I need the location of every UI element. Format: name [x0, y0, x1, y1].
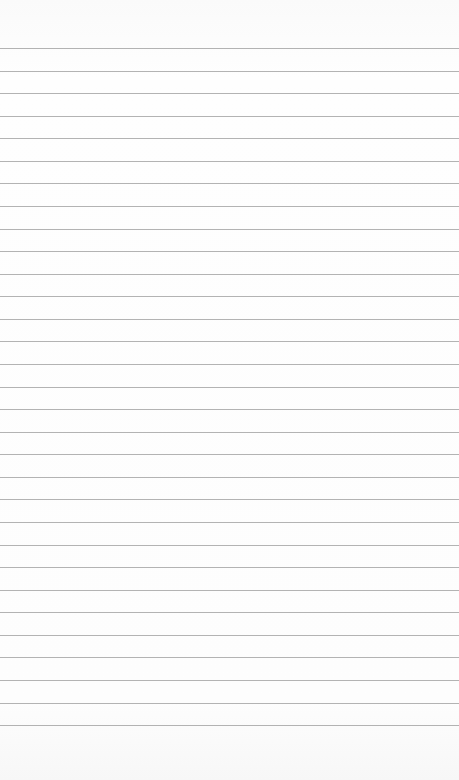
ruled-line [0, 612, 459, 613]
ruled-line [0, 364, 459, 365]
ruled-line [0, 432, 459, 433]
ruled-line [0, 680, 459, 681]
ruled-line [0, 725, 459, 726]
ruled-line [0, 71, 459, 72]
lined-paper-sheet [0, 0, 459, 780]
ruled-line [0, 703, 459, 704]
ruled-line [0, 93, 459, 94]
ruled-line [0, 477, 459, 478]
ruled-line [0, 116, 459, 117]
ruled-line [0, 409, 459, 410]
ruled-line [0, 545, 459, 546]
ruled-line [0, 341, 459, 342]
ruled-line [0, 161, 459, 162]
ruled-line [0, 206, 459, 207]
ruled-line [0, 454, 459, 455]
ruled-line [0, 387, 459, 388]
ruled-line [0, 522, 459, 523]
ruled-line [0, 48, 459, 49]
ruled-line [0, 229, 459, 230]
ruled-line [0, 183, 459, 184]
ruled-line [0, 499, 459, 500]
ruled-line [0, 635, 459, 636]
ruled-line [0, 567, 459, 568]
ruled-line [0, 138, 459, 139]
ruled-line [0, 319, 459, 320]
ruled-line [0, 657, 459, 658]
ruled-line [0, 590, 459, 591]
ruled-line [0, 251, 459, 252]
ruled-line [0, 296, 459, 297]
ruled-line [0, 274, 459, 275]
